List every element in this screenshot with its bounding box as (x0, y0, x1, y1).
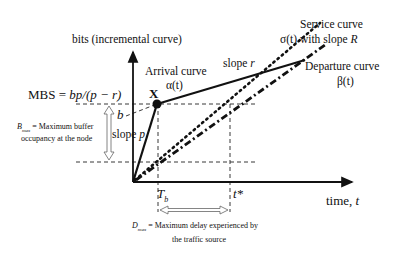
service-curve-label-2: σ(t) with slope R (280, 34, 357, 46)
departure-curve-title: Departure curve (305, 61, 379, 73)
arrival-curve-title: Arrival curve (145, 66, 207, 78)
mbs-prefix: MBS = (28, 87, 69, 102)
dmax-label-line1: Dmax = Maximum delay experienced by (132, 222, 258, 232)
mbs-label: MBS = bp/(p − r) (28, 88, 121, 101)
departure-curve-symbol: β(t) (337, 76, 354, 88)
bmax-label-line2: occupancy at the node (21, 135, 92, 143)
dmax-label-line2: the traffic source (172, 236, 226, 244)
service-curve-label-1: Service curve (300, 19, 363, 31)
point-x-label: X (149, 87, 158, 100)
tstar-label: t* (233, 187, 243, 200)
x-axis-label: time, t (326, 194, 359, 207)
b-intercept-line (126, 104, 157, 116)
arrival-curve-symbol: α(t) (166, 80, 183, 92)
bmax-label-line1: Bmax = Maximum buffer (17, 123, 93, 133)
b-label: b (117, 108, 124, 121)
tb-label: Tb (157, 187, 168, 204)
mbs-formula: bp/(p − r) (69, 87, 121, 102)
slope-r-label: slope r (223, 58, 255, 70)
dmax-double-arrow (160, 206, 228, 214)
y-axis-label: bits (incremental curve) (72, 34, 182, 46)
slope-p-label: slope p (112, 129, 145, 141)
